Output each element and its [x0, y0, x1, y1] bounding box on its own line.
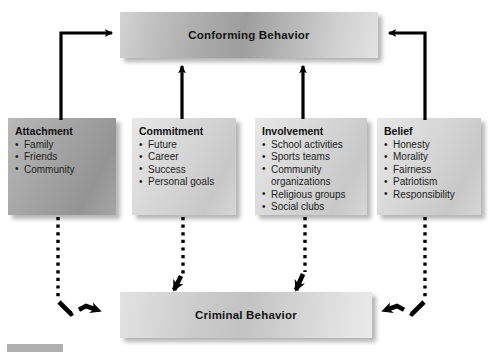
list-item: Family [15, 139, 111, 151]
list-item: Social clubs [262, 201, 362, 213]
list-item: Career [139, 151, 231, 163]
pillar-item-list: Future Career Success Personal goals [139, 139, 231, 189]
criminal-behavior-label: Criminal Behavior [195, 309, 297, 321]
box-content: Attachment Family Friends Community [8, 118, 116, 180]
pillar-belief: Belief Honesty Morality Fairness Patriot… [377, 118, 481, 215]
pillar-item-list: Family Friends Community [15, 139, 111, 176]
pillar-heading: Belief [384, 125, 476, 138]
pillar-item-list: School activities Sports teams Community… [262, 139, 362, 213]
pillar-item-list: Honesty Morality Fairness Patriotism Res… [384, 139, 476, 201]
list-item: Patriotism [384, 176, 476, 188]
list-item: Morality [384, 151, 476, 163]
box-content: Belief Honesty Morality Fairness Patriot… [377, 118, 481, 205]
diagram-canvas: Conforming Behavior Attachment Family Fr… [0, 0, 490, 358]
arrow-belief-to-conforming [389, 33, 425, 120]
list-item: Honesty [384, 139, 476, 151]
criminal-behavior-box: Criminal Behavior [120, 292, 372, 338]
list-item: Friends [15, 151, 111, 163]
arrow-belief-to-criminal [383, 217, 425, 314]
conforming-behavior-box: Conforming Behavior [120, 12, 378, 58]
box-content: Criminal Behavior [120, 292, 372, 338]
box-content: Commitment Future Career Success Persona… [132, 118, 236, 193]
list-item: Personal goals [139, 176, 231, 188]
footer-marker-bar [7, 344, 63, 352]
list-item: Community [15, 164, 111, 176]
arrow-attachment-to-conforming [61, 33, 112, 120]
arrow-involvement-to-criminal [296, 217, 305, 290]
arrow-commitment-to-criminal [174, 217, 183, 290]
list-item: Responsibility [384, 189, 476, 201]
pillar-commitment: Commitment Future Career Success Persona… [132, 118, 236, 215]
list-item: School activities [262, 139, 362, 151]
list-item: Community organizations [262, 164, 362, 189]
pillar-heading: Commitment [139, 125, 231, 138]
box-content: Conforming Behavior [120, 12, 378, 58]
pillar-involvement: Involvement School activities Sports tea… [255, 118, 367, 215]
pillar-heading: Attachment [15, 125, 111, 138]
list-item: Sports teams [262, 151, 362, 163]
conforming-behavior-label: Conforming Behavior [188, 29, 309, 41]
arrow-attachment-to-criminal [58, 217, 100, 314]
list-item: Future [139, 139, 231, 151]
list-item: Religious groups [262, 189, 362, 201]
pillar-attachment: Attachment Family Friends Community [8, 118, 116, 215]
list-item: Fairness [384, 164, 476, 176]
box-content: Involvement School activities Sports tea… [255, 118, 367, 217]
pillar-heading: Involvement [262, 125, 362, 138]
list-item: Success [139, 164, 231, 176]
